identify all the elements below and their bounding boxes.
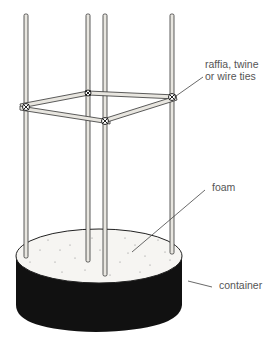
label-ties: raffia, twine or wire ties <box>205 58 259 82</box>
stake-front-mid <box>103 14 107 276</box>
bar-front-right <box>103 96 177 123</box>
label-foam: foam <box>212 181 235 193</box>
cross-bars <box>20 91 177 124</box>
stake-left <box>24 14 28 258</box>
bar-left-front <box>20 106 110 124</box>
bar-left-back <box>20 91 89 108</box>
label-container: container <box>219 279 262 291</box>
diagram-illustration <box>0 0 277 344</box>
foam-surface <box>16 229 182 283</box>
bar-back-right <box>88 91 176 99</box>
stake-back-mid <box>86 14 90 262</box>
